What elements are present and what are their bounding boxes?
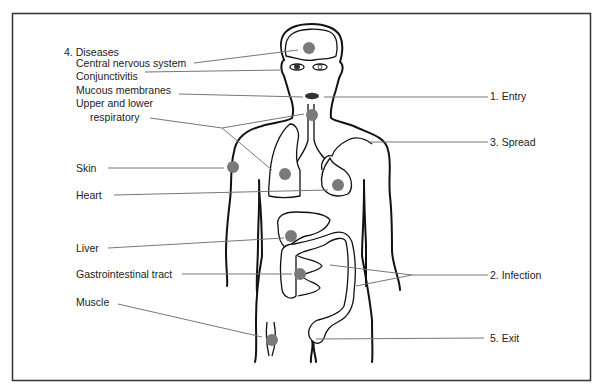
site-brain [303, 42, 315, 54]
site-heart [332, 179, 344, 191]
label-respiratory-2: respiratory [90, 111, 140, 123]
label-cns: Central nervous system [76, 57, 187, 69]
site-muscle [266, 334, 278, 346]
label-muscle: Muscle [76, 296, 109, 308]
mouth [305, 93, 319, 99]
right-pupil [318, 65, 322, 69]
site-lung [279, 168, 291, 180]
site-skin [227, 161, 239, 173]
label-infection: 2. Infection [490, 269, 542, 281]
label-mucous: Mucous membranes [76, 84, 171, 96]
label-entry: 1. Entry [490, 90, 527, 102]
site-gi [294, 268, 306, 280]
site-liver [285, 230, 297, 242]
label-spread: 3. Spread [490, 136, 536, 148]
label-heart: Heart [76, 189, 102, 201]
site-throat [306, 109, 318, 121]
label-conjunctivitis: Conjunctivitis [76, 70, 138, 82]
label-liver: Liver [76, 242, 99, 254]
label-respiratory-1: Upper and lower [76, 97, 154, 109]
label-gi: Gastrointestinal tract [76, 268, 172, 280]
label-exit: 5. Exit [490, 332, 519, 344]
left-pupil [294, 65, 300, 70]
infection-diagram: 4. Diseases Central nervous system Conju… [0, 0, 597, 387]
label-skin: Skin [76, 162, 97, 174]
